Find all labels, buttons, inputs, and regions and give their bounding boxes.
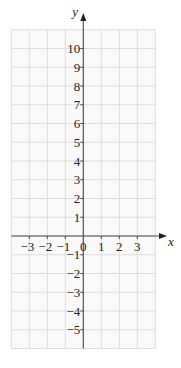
y-tick-label: −5 (66, 322, 80, 337)
x-tick-label: −3 (20, 239, 34, 254)
y-tick-label: −2 (66, 266, 80, 281)
x-tick-label: 2 (116, 239, 123, 254)
x-axis-label: x (167, 234, 174, 249)
y-tick-label: 5 (74, 135, 81, 150)
y-tick-label: 8 (74, 79, 81, 94)
y-tick-label: 10 (67, 41, 80, 56)
y-axis-arrow-icon (80, 13, 86, 21)
y-tick-label: 7 (74, 97, 81, 112)
y-tick-label: −4 (66, 304, 80, 319)
y-tick-label: 4 (74, 154, 81, 169)
y-axis-label: y (70, 4, 78, 19)
coordinate-plane: xy−3−2−1012310987654321−1−2−3−4−5 (0, 0, 181, 368)
y-tick-label: 9 (74, 60, 81, 75)
y-tick-label: −3 (66, 285, 80, 300)
x-axis-arrow-icon (159, 233, 167, 239)
x-tick-label: 0 (80, 239, 87, 254)
x-tick-label: 3 (134, 239, 141, 254)
y-tick-label: 1 (74, 210, 81, 225)
x-tick-label: −2 (38, 239, 52, 254)
x-tick-label: 1 (98, 239, 105, 254)
y-tick-label: 2 (74, 191, 81, 206)
y-tick-label: 6 (74, 116, 81, 131)
y-tick-label: −1 (66, 247, 80, 262)
y-tick-label: 3 (74, 172, 81, 187)
